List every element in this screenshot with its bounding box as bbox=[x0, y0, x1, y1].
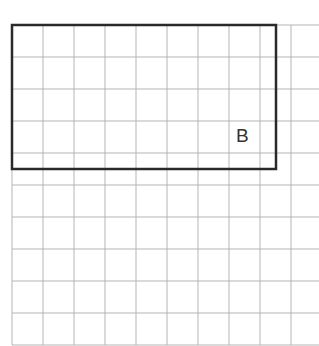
rectangle-label: B bbox=[236, 125, 249, 147]
grid-diagram bbox=[0, 0, 319, 346]
grid-lines bbox=[12, 25, 319, 345]
rectangle-b bbox=[12, 25, 276, 169]
